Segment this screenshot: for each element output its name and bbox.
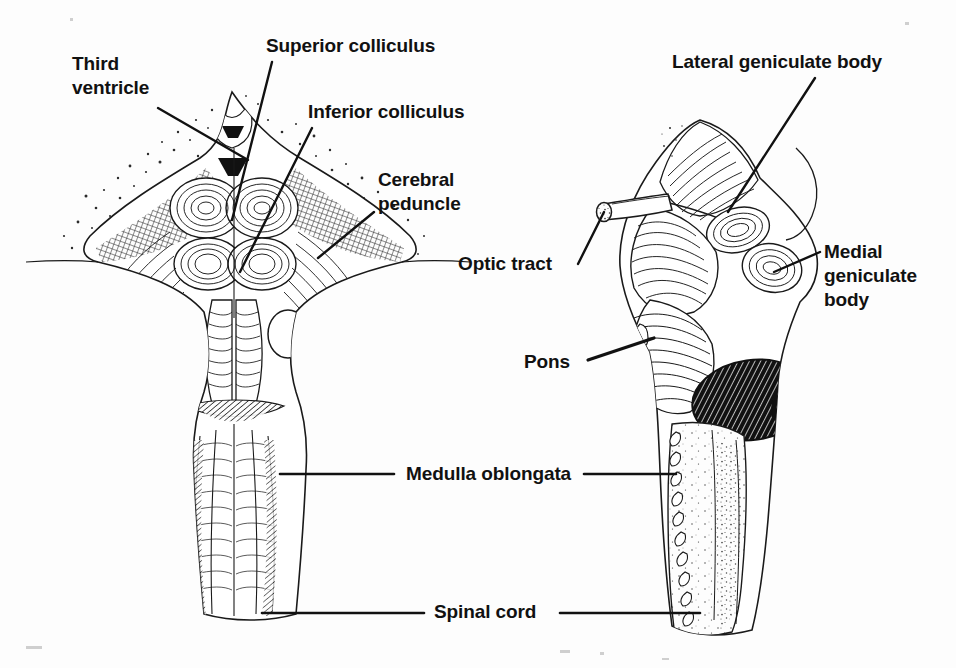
vestibulocochlear-nerve-root bbox=[624, 398, 638, 420]
label-medial-geniculate-body: Medial geniculate body bbox=[824, 240, 917, 312]
trigeminal-nerve-root bbox=[634, 324, 648, 350]
superior-cerebellar-peduncle-stump-right bbox=[268, 310, 308, 358]
middle-cerebellar-peduncle-stump-right bbox=[294, 313, 419, 407]
label-cerebral-peduncle: Cerebral peduncle bbox=[378, 168, 461, 216]
label-superior-colliculus: Superior colliculus bbox=[266, 34, 435, 58]
leader-pons bbox=[588, 338, 654, 360]
label-inferior-colliculus: Inferior colliculus bbox=[308, 100, 464, 124]
fourth-ventricle-floor-left bbox=[206, 300, 232, 404]
facial-nerve-root bbox=[620, 380, 634, 404]
left-cut-edge-line bbox=[26, 261, 98, 263]
superior-cerebellar-peduncle-stump-left bbox=[156, 310, 196, 358]
lateral-view bbox=[597, 120, 818, 635]
label-spinal-cord: Spinal cord bbox=[434, 600, 536, 624]
label-optic-tract: Optic tract bbox=[458, 252, 552, 276]
fourth-ventricle-floor-right bbox=[236, 300, 262, 404]
label-lateral-geniculate-body: Lateral geniculate body bbox=[672, 50, 882, 74]
brainstem-figure bbox=[0, 0, 956, 668]
middle-cerebellar-peduncle-stump-left bbox=[48, 313, 173, 407]
label-third-ventricle: Third ventricle bbox=[72, 52, 149, 100]
label-medulla-oblongata: Medulla oblongata bbox=[406, 462, 571, 486]
label-pons: Pons bbox=[524, 350, 570, 374]
inferior-colliculus-right bbox=[228, 238, 296, 290]
leader-optic-tract bbox=[578, 212, 604, 264]
